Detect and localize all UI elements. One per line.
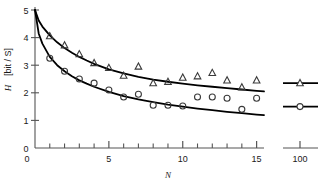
chart-figure: 012345051015 100 H [bit / S] N	[0, 0, 320, 188]
x-tick-label: 0	[24, 154, 29, 164]
plot-background	[0, 0, 320, 188]
x-tick-label: 15	[252, 154, 262, 164]
scatter-plot-canvas: 012345051015 100 H [bit / S] N	[0, 0, 320, 188]
y-tick-label: 2	[23, 88, 28, 98]
x-tick-label: 10	[178, 154, 188, 164]
y-tick-label: 3	[23, 61, 28, 71]
x-axis-label: N	[164, 170, 172, 180]
y-tick-label: 1	[23, 116, 28, 126]
y-tick-label: 0	[23, 144, 28, 154]
y-axis-unit-label: [bit / S]	[3, 48, 13, 76]
y-axis-label: H	[3, 84, 13, 92]
x-tick-label: 5	[106, 154, 111, 164]
y-tick-label: 5	[23, 6, 28, 16]
isolated-data-point-circle	[297, 104, 303, 110]
broken-axis-label: 100	[292, 154, 307, 164]
y-tick-label: 4	[23, 33, 28, 43]
